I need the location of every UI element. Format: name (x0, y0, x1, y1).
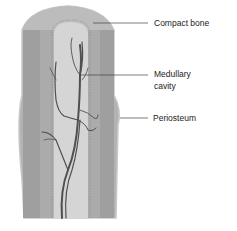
bone-diagram (0, 0, 237, 231)
label-medullary-cavity-line2: cavity (154, 81, 176, 91)
compact-bone-left-inner (40, 30, 53, 218)
label-compact-bone: Compact bone (154, 18, 209, 28)
label-periosteum: Periosteum (153, 113, 196, 123)
label-medullary-cavity-line1: Medullary (154, 69, 191, 79)
